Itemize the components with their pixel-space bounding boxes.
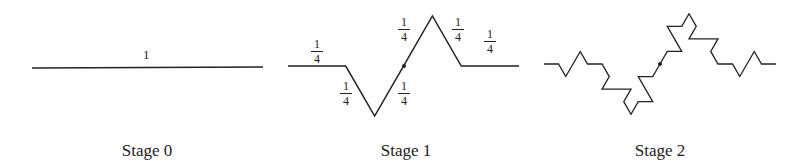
stage0-length-label: 1 xyxy=(143,48,150,61)
stage2-caption: Stage 2 xyxy=(600,141,720,161)
fraction-label: 14 xyxy=(484,28,496,55)
stage2-midpoint xyxy=(658,62,662,66)
fraction-label: 14 xyxy=(398,80,410,107)
stage1-midpoint xyxy=(402,64,406,68)
fraction-label: 14 xyxy=(398,16,410,43)
stage1-caption: Stage 1 xyxy=(346,141,466,161)
fraction-label: 14 xyxy=(452,16,464,43)
stage0-segment xyxy=(32,67,263,68)
fraction-label: 14 xyxy=(311,38,323,65)
stage0-caption: Stage 0 xyxy=(87,141,207,161)
fraction-label: 14 xyxy=(340,80,352,107)
